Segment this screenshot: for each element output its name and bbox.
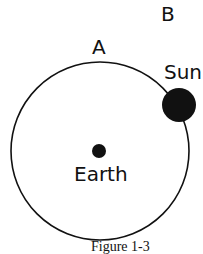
figure-caption: Figure 1-3	[91, 240, 150, 254]
earth-dot	[92, 144, 106, 158]
label-earth: Earth	[74, 164, 128, 184]
label-a: A	[92, 37, 106, 57]
label-b: B	[161, 4, 175, 24]
sun-disc	[162, 88, 196, 122]
label-sun: Sun	[164, 62, 202, 82]
